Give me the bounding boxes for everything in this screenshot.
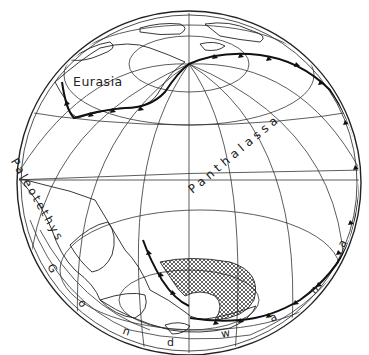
label-gondwana-d: d xyxy=(167,336,174,349)
label-eurasia: Eurasia xyxy=(73,74,123,89)
globe-map xyxy=(0,0,369,355)
